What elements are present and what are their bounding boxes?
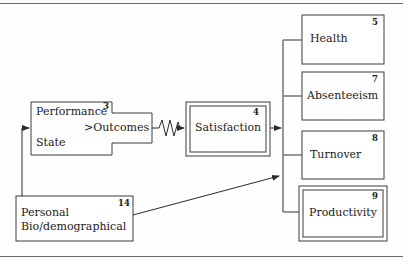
node-health-label: Health [310,33,348,45]
node-turnover-id: 8 [372,134,378,143]
connector-zigzag-performance-satisfaction [152,120,184,136]
node-productivity-id: 9 [372,192,378,201]
node-performance-id: 3 [103,102,109,111]
node-performance-label-line1: Performance [36,106,107,118]
node-personal-label-line2: Bio/demographical [21,220,126,234]
node-personal-id: 14 [118,199,130,208]
node-performance-label-line2: State [36,137,65,149]
node-satisfaction-label: Satisfaction [195,122,261,134]
node-absenteeism-id: 7 [372,75,378,84]
node-performance-tab-label: >Outcomes [84,122,149,134]
node-health-id: 5 [372,18,378,27]
node-turnover-label: Turnover [310,149,361,161]
node-personal-label-line1: Personal [21,206,69,220]
connector-personal-trunk [133,176,279,215]
diagram-figure: Performance State >Outcomes 3 Satisfacti… [0,0,403,265]
node-satisfaction-id: 4 [253,108,259,117]
connector-personal-performance-feedback [22,128,29,196]
node-absenteeism-label: Absenteeism [307,90,378,102]
node-productivity-label: Productivity [309,207,377,219]
